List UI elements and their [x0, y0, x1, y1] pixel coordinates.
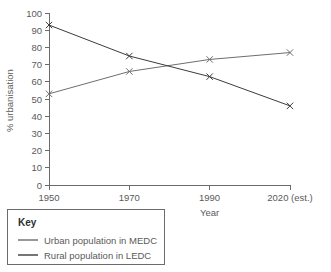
- x-tick-label: 1990: [199, 192, 220, 203]
- y-tick-label: 0: [37, 180, 42, 191]
- legend-label-urban-medc: Urban population in MEDC: [44, 235, 157, 246]
- y-tick-label: 40: [31, 111, 42, 122]
- x-tick-label: 1950: [38, 192, 59, 203]
- x-axis-ticks: [49, 185, 290, 190]
- y-tick-label: 70: [31, 59, 42, 70]
- series-markers-urban-medc: [46, 49, 293, 97]
- x-tick-label: 1970: [119, 192, 140, 203]
- line-chart: % urbanisation 100 90 80 70 60 50 40 30 …: [0, 0, 331, 272]
- y-tick-label: 60: [31, 76, 42, 87]
- y-tick-label: 90: [31, 25, 42, 36]
- legend: Key Urban population in MEDC Rural popul…: [8, 210, 165, 265]
- x-axis-tick-labels: 1950 1970 1990 2020 (est.): [38, 192, 312, 203]
- y-axis-ticks: [45, 13, 49, 185]
- legend-title: Key: [18, 217, 37, 228]
- series-line-urban-medc: [49, 53, 290, 94]
- x-axis-title: Year: [200, 207, 219, 218]
- y-tick-label: 80: [31, 42, 42, 53]
- y-tick-label: 30: [31, 128, 42, 139]
- legend-label-rural-ledc: Rural population in LEDC: [44, 250, 151, 261]
- y-tick-label: 10: [31, 162, 42, 173]
- chart-container: % urbanisation 100 90 80 70 60 50 40 30 …: [0, 0, 331, 272]
- y-tick-label: 100: [26, 8, 42, 19]
- y-tick-label: 20: [31, 145, 42, 156]
- y-tick-label: 50: [31, 94, 42, 105]
- y-axis-title: % urbanisation: [4, 69, 15, 132]
- x-tick-label: 2020 (est.): [267, 192, 312, 203]
- y-axis-tick-labels: 100 90 80 70 60 50 40 30 20 10 0: [26, 8, 42, 191]
